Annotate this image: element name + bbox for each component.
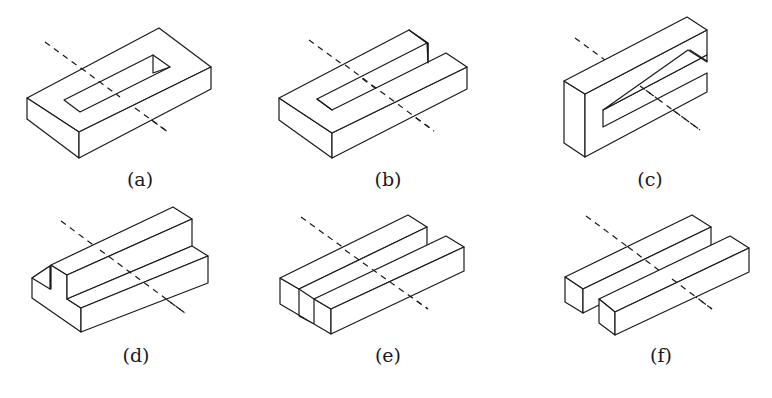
panel-b: (b) [279,30,467,190]
panel-label-c: (c) [637,168,662,190]
panel-label-b: (b) [375,168,402,190]
panel-label-d: (d) [123,344,150,366]
panel-f: (f) [565,215,749,366]
figure-canvas: (a) (b) (c) [0,0,772,398]
panel-label-e: (e) [375,344,401,366]
panel-e: (e) [280,215,464,366]
panel-label-f: (f) [650,344,672,366]
panel-label-a: (a) [127,168,153,190]
panel-a: (a) [27,28,211,190]
panel-c: (c) [564,17,707,190]
panel-d: (d) [32,207,208,366]
